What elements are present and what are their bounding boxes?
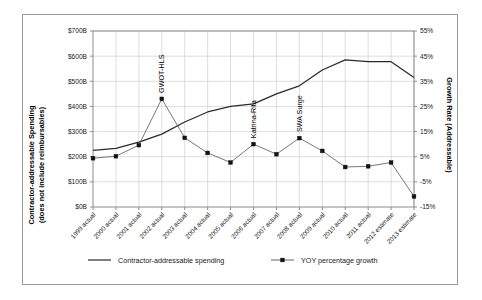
y-axis-left-tick-label: $300B xyxy=(68,128,88,135)
data-point-marker xyxy=(412,195,416,199)
y-axis-left-tick-label: $500B xyxy=(68,78,88,85)
legend-marker-growth xyxy=(281,258,285,262)
data-point-marker xyxy=(114,154,118,158)
data-point-marker xyxy=(320,149,324,153)
y-axis-right-tick-label: 15% xyxy=(420,128,433,135)
y-axis-right-tick-label: 55% xyxy=(420,27,433,34)
chart-figure: $0B$100B$200B$300B$400B$500B$600B$700B -… xyxy=(22,14,458,285)
legend-label-growth: YOY percentage growth xyxy=(301,256,378,265)
y-axis-left-tick-label: $100B xyxy=(68,178,88,185)
annotation-label: Katrina-Rita xyxy=(249,100,258,138)
y-axis-right-tick-label: -15% xyxy=(420,203,436,210)
y-axis-left-title-line1: Contractor-addressable Spending xyxy=(27,105,36,225)
y-axis-left-title-line2: (does not include reimbursables) xyxy=(37,106,46,223)
data-point-marker xyxy=(229,161,233,165)
y-axis-right-ticks: -15%-5%5%15%25%35%45%55% xyxy=(414,27,436,210)
data-point-marker xyxy=(389,161,393,165)
legend-label-spending: Contractor-addressable spending xyxy=(118,256,224,265)
y-axis-left-tick-label: $0B xyxy=(75,203,87,210)
y-axis-right-tick-label: 45% xyxy=(420,53,433,60)
y-axis-right-tick-label: 35% xyxy=(420,78,433,85)
annotation-label: SWA Surge xyxy=(295,95,304,132)
data-point-marker xyxy=(366,164,370,168)
data-point-marker xyxy=(252,142,256,146)
y-axis-right-tick-label: 5% xyxy=(420,153,430,160)
data-point-marker xyxy=(275,152,279,156)
data-point-marker xyxy=(297,136,301,140)
data-point-marker xyxy=(206,151,210,155)
data-point-marker xyxy=(91,156,95,160)
annotation-label: GWOT-HLS xyxy=(157,54,166,93)
y-axis-right-title: Growth Rate (Addressable) xyxy=(445,77,454,173)
data-point-marker xyxy=(137,143,141,147)
data-point-marker xyxy=(160,97,164,101)
y-axis-right-tick-label: -5% xyxy=(420,178,432,185)
y-axis-left-tick-label: $200B xyxy=(68,153,88,160)
y-axis-left-tick-label: $400B xyxy=(68,103,88,110)
y-axis-left-tick-label: $600B xyxy=(68,53,88,60)
y-axis-right-tick-label: 25% xyxy=(420,103,433,110)
data-point-marker xyxy=(183,136,187,140)
line-chart: $0B$100B$200B$300B$400B$500B$600B$700B -… xyxy=(23,15,457,284)
y-axis-left-tick-label: $700B xyxy=(68,27,88,34)
chart-legend: Contractor-addressable spendingYOY perce… xyxy=(88,256,378,265)
y-axis-left-ticks: $0B$100B$200B$300B$400B$500B$600B$700B xyxy=(68,27,93,210)
data-point-marker xyxy=(343,165,347,169)
x-axis-ticks: 1999 actual2000 actual2001 actual2002 ac… xyxy=(69,207,418,245)
